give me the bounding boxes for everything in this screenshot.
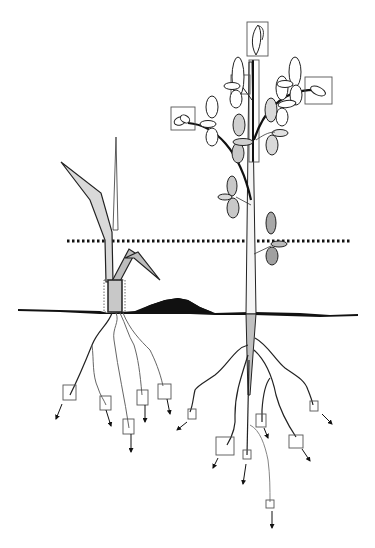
meristem-box	[216, 437, 234, 455]
long-leaf	[61, 162, 113, 282]
shoot-base	[108, 280, 122, 312]
plant-diagram	[0, 0, 375, 548]
meristem-box	[310, 401, 318, 411]
growth-arrow-icon	[213, 458, 218, 468]
growth-arrow-icon	[56, 404, 62, 419]
meristem-box	[137, 390, 148, 405]
spike-leaf	[113, 137, 118, 230]
growth-arrow-icon	[167, 399, 170, 414]
meristem-box	[158, 384, 171, 399]
tap-root	[246, 314, 256, 395]
growth-arrow-icon	[106, 410, 111, 426]
left-roots	[70, 313, 163, 428]
meristem-box	[188, 409, 196, 419]
left-plant	[56, 137, 171, 452]
left-root-meristems	[63, 384, 171, 434]
apical-bud	[247, 22, 268, 56]
right-root-meristems	[188, 401, 318, 508]
left-root-arrows	[56, 399, 170, 452]
growth-arrow-icon	[322, 414, 332, 424]
right-plant	[171, 22, 332, 528]
short-leaf-2	[125, 252, 160, 280]
growth-arrow-icon	[177, 422, 187, 430]
growth-arrow-icon	[264, 428, 268, 438]
growth-arrow-icon	[243, 464, 246, 484]
meristem-box	[256, 414, 266, 427]
right-root-arrows	[177, 414, 332, 528]
soil-surface	[18, 298, 358, 317]
growth-arrow-icon	[302, 449, 310, 461]
soil-mound	[140, 298, 212, 312]
